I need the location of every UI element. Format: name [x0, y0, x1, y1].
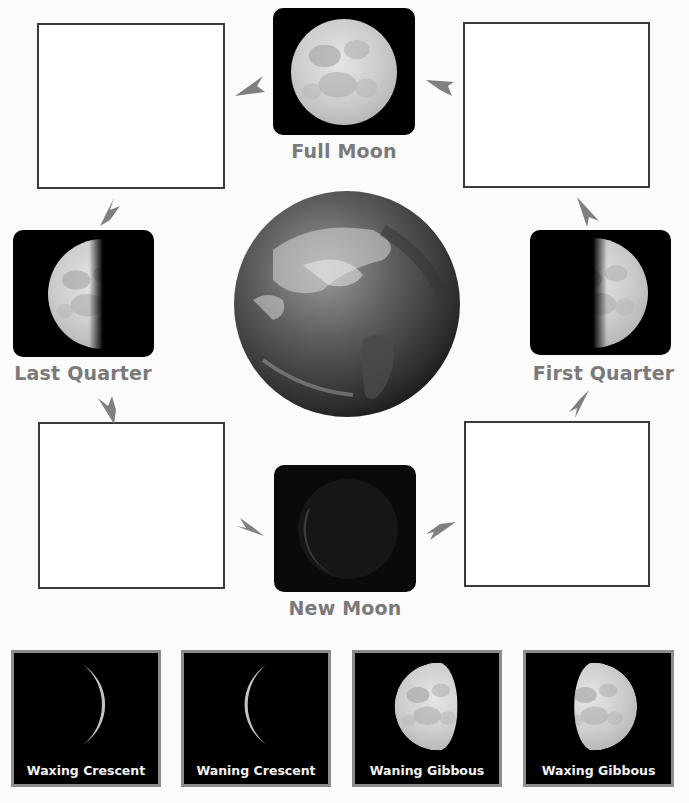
- arrow-topright-to-full-icon: [424, 70, 458, 104]
- last-quarter-card: [13, 230, 154, 357]
- full-moon-label: Full Moon: [273, 140, 415, 162]
- blank-box-top-left: [37, 23, 225, 189]
- arrow-lastquarter-to-bottomleft-icon: [92, 392, 126, 426]
- waxing-gibbous-card[interactable]: Waxing Gibbous: [523, 650, 674, 787]
- waxing-crescent-label: Waxing Crescent: [14, 763, 158, 778]
- waning-gibbous-card[interactable]: Waning Gibbous: [352, 650, 502, 787]
- first-quarter-moon-icon: [530, 230, 671, 355]
- new-moon-icon: [274, 465, 416, 592]
- first-quarter-card: [530, 230, 671, 355]
- last-quarter-moon-icon: [13, 230, 154, 357]
- arrow-full-to-topleft-icon: [233, 68, 267, 102]
- waxing-gibbous-label: Waxing Gibbous: [526, 763, 671, 778]
- blank-box-bottom-left: [38, 422, 225, 589]
- waning-gibbous-label: Waning Gibbous: [355, 763, 499, 778]
- arrow-bottomleft-to-new-icon: [232, 512, 266, 546]
- first-quarter-label: First Quarter: [518, 362, 689, 384]
- blank-box-top-right: [463, 22, 650, 188]
- arrow-topleft-to-lastquarter-icon: [92, 194, 126, 228]
- last-quarter-label: Last Quarter: [0, 362, 166, 384]
- arrow-new-to-bottomright-icon: [424, 514, 458, 548]
- earth-globe-icon: [233, 190, 461, 418]
- waning-crescent-label: Waning Crescent: [184, 763, 328, 778]
- new-moon-card: [274, 465, 416, 592]
- full-moon-card: [273, 8, 415, 135]
- arrow-firstquarter-to-topright-icon: [571, 195, 605, 229]
- new-moon-label: New Moon: [274, 597, 416, 619]
- full-moon-icon: [273, 8, 415, 135]
- waxing-crescent-card[interactable]: Waxing Crescent: [11, 650, 161, 787]
- arrow-bottomright-to-firstquarter-icon: [565, 388, 599, 422]
- waning-crescent-card[interactable]: Waning Crescent: [181, 650, 331, 787]
- blank-box-bottom-right: [464, 421, 650, 587]
